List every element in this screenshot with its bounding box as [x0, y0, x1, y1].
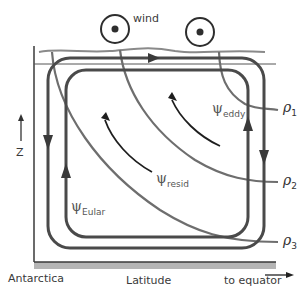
residual-arrow-1 — [105, 120, 152, 172]
ground-strip — [34, 262, 276, 269]
psi-resid-label: ψresid — [156, 170, 189, 189]
wind-label: wind — [133, 12, 159, 25]
arrow-head-residual-1-icon — [101, 112, 110, 121]
z-arrow-head-icon — [18, 114, 24, 121]
arrow-head-residual-2-icon — [168, 92, 177, 101]
arrow-down-left-icon — [43, 135, 53, 150]
psi-eddy-label: ψeddy — [212, 100, 245, 119]
psi-eular-label: ψEular — [71, 198, 105, 217]
sea-surface-wave — [39, 48, 265, 52]
rho3-label: ρ3 — [283, 232, 297, 251]
overturning-diagram — [0, 0, 308, 304]
z-axis-label: Z — [16, 146, 24, 159]
to-equator-label: to equator — [224, 274, 282, 287]
rho2-label: ρ2 — [283, 172, 297, 191]
arrow-east-top-icon — [148, 53, 160, 63]
latitude-label: Latitude — [126, 274, 171, 287]
wind-out-of-page-icon — [101, 15, 129, 43]
equator-arrow-head-icon — [286, 272, 294, 278]
rho1-label: ρ1 — [283, 99, 297, 118]
antarctica-label: Antarctica — [8, 272, 64, 285]
arrow-up-left-inner-icon — [61, 163, 71, 178]
eulerian-cell-outer — [48, 58, 264, 248]
wind-out-of-page-icon — [186, 18, 214, 46]
arrow-down-right-icon — [259, 150, 269, 165]
